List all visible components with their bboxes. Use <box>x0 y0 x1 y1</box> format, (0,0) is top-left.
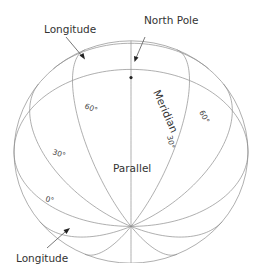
globe-diagram: Longitude North Pole Meridian Parallel L… <box>0 0 260 279</box>
degree-label-30-left: 30° <box>51 147 67 160</box>
meridian-30 <box>131 50 190 227</box>
label-north-pole: North Pole <box>144 14 198 26</box>
degree-label-30-meridian: 30° <box>165 135 177 150</box>
arrow-icon <box>134 56 139 62</box>
meridian--150 <box>85 226 131 255</box>
degree-label-60-right: 60° <box>197 109 211 125</box>
arrow-icon <box>64 228 71 234</box>
label-parallel: Parallel <box>113 162 151 174</box>
label-longitude-bottom: Longitude <box>16 252 68 264</box>
meridians <box>14 41 248 263</box>
meridian--120 <box>40 222 131 237</box>
meridian--30 <box>73 50 132 227</box>
longitude-top-leader <box>66 37 85 60</box>
meridian-150 <box>131 226 177 255</box>
meridian-120 <box>131 222 222 237</box>
label-meridian: Meridian <box>151 88 180 134</box>
degree-label-60-left: 60° <box>83 102 99 115</box>
north-pole-marker <box>129 76 132 79</box>
label-longitude-top: Longitude <box>44 23 96 35</box>
graticule <box>14 41 248 263</box>
